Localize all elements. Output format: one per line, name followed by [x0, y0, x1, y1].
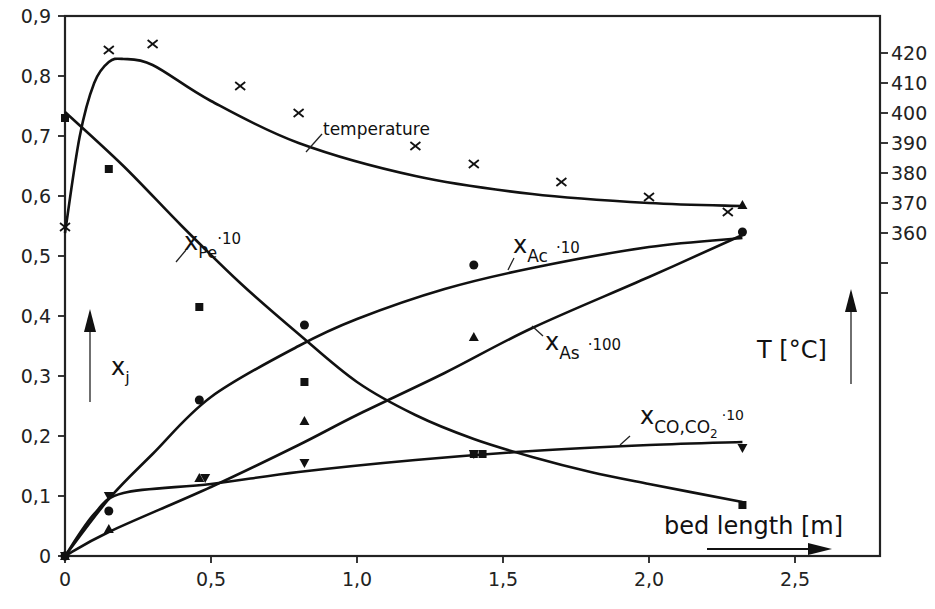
y-right-tick-label: 390: [891, 132, 927, 154]
y-right-tick-label: 420: [891, 42, 927, 64]
x-co-main: x: [640, 402, 654, 430]
svg-text:xCO,CO2·10: xCO,CO2·10: [640, 402, 744, 441]
data-point-circle: [300, 321, 309, 330]
right-y-axis: 360370380390400410420: [880, 42, 927, 293]
data-point-x: [469, 160, 479, 168]
y-right-tick-label: 380: [891, 162, 927, 184]
data-point-circle: [195, 396, 204, 405]
x-j-axis-label: xj: [84, 309, 130, 402]
x-as-label: xAs·100: [532, 326, 621, 363]
x-j-main: x: [111, 353, 125, 381]
x-as-main: x: [545, 328, 559, 356]
x-tick-label: 1,5: [488, 568, 518, 590]
y-tick-label: 0,1: [21, 485, 51, 507]
data-point-triangle-up: [104, 524, 114, 533]
y-right-tick-label: 410: [891, 72, 927, 94]
y-right-tick-label: 400: [891, 102, 927, 124]
x-as-factor: ·100: [588, 336, 621, 354]
t-axis-label: T [°C]: [756, 289, 857, 384]
y-tick-label: 0,4: [21, 305, 51, 327]
x-axis: 00,51,01,52,02,5: [59, 556, 810, 590]
y-tick-label: 0,8: [21, 65, 51, 87]
y-right-tick-label: 360: [891, 222, 927, 244]
series-curve: [65, 235, 742, 556]
data-point-triangle-down: [737, 444, 747, 453]
data-point-triangle-down: [299, 459, 309, 468]
svg-text:xPe·10: xPe·10: [184, 228, 241, 262]
data-point-square: [195, 303, 203, 311]
series-curve: [65, 112, 742, 502]
svg-text:xj: xj: [111, 353, 130, 387]
x-tick-label: 0,5: [196, 568, 226, 590]
y-right-tick-label: 370: [891, 192, 927, 214]
arrow-up-icon: [845, 289, 857, 312]
x-tick-label: 2,0: [634, 568, 664, 590]
x-ac-label: xAc·10: [508, 231, 580, 270]
arrow-up-icon: [84, 309, 96, 332]
y-tick-label: 0: [39, 545, 51, 567]
y-tick-label: 0,5: [21, 245, 51, 267]
data-point-square: [61, 114, 69, 122]
y-tick-label: 0,6: [21, 185, 51, 207]
series-curve: [65, 442, 742, 556]
data-point-square: [105, 165, 113, 173]
x-j-sub: j: [124, 368, 129, 387]
data-point-circle: [104, 507, 113, 516]
data-point-x: [644, 193, 654, 201]
temperature-label: temperature: [306, 119, 430, 152]
x-as-sub: As: [559, 343, 580, 363]
x-tick-label: 0: [59, 568, 71, 590]
x-co-sub: CO,CO: [654, 417, 710, 437]
left-y-axis: 00,10,20,30,40,50,60,70,80,9: [21, 5, 65, 567]
x-co-co2-label: xCO,CO2·10: [620, 402, 744, 445]
data-point-triangle-up: [469, 332, 479, 341]
x-pe-main: x: [184, 228, 198, 256]
svg-text:xAs·100: xAs·100: [545, 328, 621, 363]
bed-length-label-text: bed length [m]: [664, 512, 843, 540]
data-point-circle: [738, 228, 747, 237]
data-point-square: [300, 378, 308, 386]
data-point-triangle-up: [737, 200, 747, 209]
x-co-sub2: 2: [710, 427, 718, 441]
data-point-x: [410, 142, 420, 150]
x-pe-label: xPe·10: [176, 228, 241, 262]
bed-length-label: bed length [m]: [664, 512, 843, 555]
data-point-x: [556, 178, 566, 186]
x-co-factor: ·10: [722, 407, 744, 423]
y-tick-label: 0,7: [21, 125, 51, 147]
data-point-x: [723, 208, 733, 216]
x-ac-sub: Ac: [527, 246, 548, 266]
y-tick-label: 0,2: [21, 425, 51, 447]
chart: 00,10,20,30,40,50,60,70,80,9 36037038039…: [0, 0, 935, 609]
data-point-square: [479, 450, 487, 458]
x-pe-factor: ·10: [217, 230, 241, 248]
x-ac-factor: ·10: [556, 239, 580, 257]
data-point-square: [738, 501, 746, 509]
y-tick-label: 0,3: [21, 365, 51, 387]
x-tick-label: 1,0: [342, 568, 372, 590]
temperature-label-text: temperature: [323, 119, 430, 139]
plot-frame: [65, 16, 880, 556]
data-point-x: [235, 82, 245, 90]
x-ac-main: x: [513, 231, 527, 259]
data-point-x: [294, 109, 304, 117]
x-tick-label: 2,5: [780, 568, 810, 590]
y-tick-label: 0,9: [21, 5, 51, 27]
series-curve: [65, 59, 742, 233]
data-point-x: [148, 40, 158, 48]
series-curve: [65, 238, 742, 556]
arrow-right-icon: [808, 543, 832, 555]
data-point-circle: [469, 261, 478, 270]
data-point-triangle-up: [299, 416, 309, 425]
t-axis-label-text: T [°C]: [756, 336, 827, 364]
x-pe-sub: Pe: [198, 243, 217, 262]
data-point-x: [104, 46, 114, 54]
